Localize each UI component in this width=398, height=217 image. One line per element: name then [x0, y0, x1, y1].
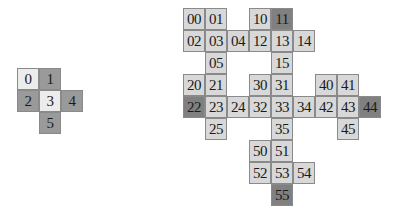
right-cell-54: 54 — [293, 162, 315, 184]
right-cell-52: 52 — [249, 162, 271, 184]
left-cell-1: 1 — [39, 68, 61, 90]
right-cell-00: 00 — [183, 8, 205, 30]
right-cell-50: 50 — [249, 140, 271, 162]
right-cell-41: 41 — [337, 74, 359, 96]
right-cell-22: 22 — [183, 96, 205, 118]
right-cell-43: 43 — [337, 96, 359, 118]
left-cell-0: 0 — [17, 68, 39, 90]
right-cell-15: 15 — [271, 52, 293, 74]
right-cell-53: 53 — [271, 162, 293, 184]
right-cell-05: 05 — [205, 52, 227, 74]
right-cell-42: 42 — [315, 96, 337, 118]
right-cell-02: 02 — [183, 30, 205, 52]
right-cell-51: 51 — [271, 140, 293, 162]
right-cell-11: 11 — [271, 8, 293, 30]
right-cell-30: 30 — [249, 74, 271, 96]
right-cell-24: 24 — [227, 96, 249, 118]
right-cell-32: 32 — [249, 96, 271, 118]
right-cell-33: 33 — [271, 96, 293, 118]
right-cell-01: 01 — [205, 8, 227, 30]
right-cell-10: 10 — [249, 8, 271, 30]
left-cell-3: 3 — [39, 90, 61, 112]
right-cell-21: 21 — [205, 74, 227, 96]
right-cell-13: 13 — [271, 30, 293, 52]
right-cell-04: 04 — [227, 30, 249, 52]
right-cell-44: 44 — [359, 96, 381, 118]
right-cell-25: 25 — [205, 118, 227, 140]
right-cell-03: 03 — [205, 30, 227, 52]
left-cell-4: 4 — [61, 90, 83, 112]
left-cell-5: 5 — [39, 112, 61, 134]
right-cell-14: 14 — [293, 30, 315, 52]
left-cell-2: 2 — [17, 90, 39, 112]
right-cell-55: 55 — [271, 184, 293, 206]
right-cell-20: 20 — [183, 74, 205, 96]
right-cell-40: 40 — [315, 74, 337, 96]
right-cell-31: 31 — [271, 74, 293, 96]
right-cell-35: 35 — [271, 118, 293, 140]
right-cell-45: 45 — [337, 118, 359, 140]
right-cell-34: 34 — [293, 96, 315, 118]
right-cell-23: 23 — [205, 96, 227, 118]
right-cell-12: 12 — [249, 30, 271, 52]
